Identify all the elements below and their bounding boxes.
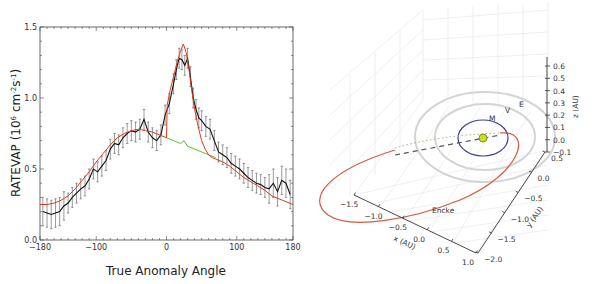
y-tick-label: 0.0: [24, 236, 37, 245]
z-tick-label-3d: 0.5: [553, 74, 565, 83]
x-tick-label-3d: −1.0: [364, 212, 382, 221]
z-axis-title-3d: z (AU): [571, 95, 580, 118]
z-tick-label-3d: −0.1: [553, 148, 571, 157]
y-axis-ticks-3d: 0.50.0−0.5−1.0−1.5−2.0: [476, 151, 564, 264]
z-tick-label-3d: 0.3: [553, 99, 565, 108]
orbit-3d-plot: V E M Encke −1.5−1.0−0.50.00.51.0 0.50.0…: [320, 2, 580, 267]
x-tick-label-3d: 0.5: [438, 246, 450, 255]
ratevap-chart: −180−1000100180 0.00.51.01.5 True Anomal…: [9, 23, 301, 278]
x-tick-label: 180: [285, 243, 300, 252]
label-encke: Encke: [432, 206, 455, 215]
x-tick-label-3d: 1.0: [462, 258, 474, 267]
x-tick-label: 100: [229, 243, 244, 252]
x-tick-label-3d: −1.5: [340, 200, 358, 209]
y-axis-title: RATEVAP (106 cm-2s-1): [9, 69, 23, 197]
y-tick-label-3d: −2.0: [484, 255, 502, 264]
label-earth: E: [519, 100, 524, 109]
z-axis-ticks-3d: 0.60.50.40.30.20.10.0−0.1: [545, 62, 571, 157]
label-venus: V: [505, 106, 511, 115]
y-tick-label-3d: −1.5: [497, 235, 515, 244]
x-tick-label: −100: [85, 243, 107, 252]
y-tick-label-3d: 0.0: [538, 174, 550, 183]
sun-marker: [479, 134, 487, 142]
x-tick-label-3d: −0.5: [389, 223, 407, 232]
x-axis-title: True Anomaly Angle: [105, 264, 226, 278]
y-tick-label-3d: −0.5: [524, 194, 542, 203]
z-tick-label-3d: 0.6: [553, 62, 565, 71]
label-mercury: M: [489, 114, 495, 123]
z-tick-label-3d: 0.0: [553, 136, 565, 145]
figure: −180−1000100180 0.00.51.01.5 True Anomal…: [0, 0, 594, 284]
z-tick-label-3d: 0.1: [553, 123, 565, 132]
z-tick-label-3d: 0.4: [553, 87, 565, 96]
x-axis-ticks-3d: −1.5−1.0−0.50.00.51.0: [340, 193, 478, 268]
z-tick-label-3d: 0.2: [553, 111, 565, 120]
y-tick-label: 1.5: [24, 23, 37, 32]
y-tick-label: 1.0: [24, 94, 37, 103]
x-tick-label: 0: [164, 243, 169, 252]
y-tick-label: 0.5: [24, 165, 37, 174]
